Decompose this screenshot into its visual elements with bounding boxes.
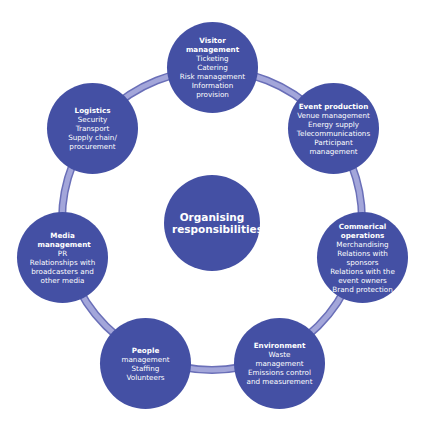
node-people: People management Staffing Volunteers (100, 318, 191, 409)
node-title: Logistics (75, 106, 111, 115)
node-item: Waste management (254, 350, 306, 368)
node-logistics: Logistics Security Transport Supply chai… (47, 83, 138, 174)
node-title: Media management (38, 231, 88, 249)
node-item: Supply chain/ procurement (65, 133, 121, 151)
node-item: PR (58, 249, 67, 258)
node-item: Venue management (297, 111, 370, 120)
center-title: Organising responsibilities (172, 211, 252, 235)
node-title: People (132, 346, 160, 355)
node-item: Energy supply (308, 120, 359, 129)
node-item: Relations with sponsors (335, 249, 391, 267)
node-commercial-operations: Commerical operations Merchandising Rela… (317, 212, 408, 303)
node-title: Environment (254, 341, 306, 350)
node-item: Relationships with broadcasters and othe… (28, 258, 98, 285)
node-item: Transport (76, 124, 110, 133)
node-item: Information provision (185, 81, 241, 99)
node-item: Brand protection (332, 285, 392, 294)
node-item: Merchandising (336, 240, 388, 249)
center-node-organising-responsibilities: Organising responsibilities (164, 175, 260, 271)
node-item: Catering (197, 63, 228, 72)
node-item: Volunteers (126, 373, 164, 382)
node-item: Emissions control and measurement (245, 368, 315, 386)
node-item: Staffing (132, 364, 160, 373)
node-item: Security (78, 115, 108, 124)
node-item: Ticketing (196, 54, 228, 63)
node-item: management (121, 355, 169, 364)
node-item: Risk management (180, 72, 245, 81)
node-environment: Environment Waste management Emissions c… (234, 318, 325, 409)
node-title: Visitor management (183, 36, 243, 54)
node-title: Commerical operations (337, 222, 389, 240)
node-item: Participant management (308, 138, 360, 156)
node-event-production: Event production Venue management Energy… (288, 83, 379, 174)
node-media-management: Media management PR Relationships with b… (17, 212, 108, 303)
node-title: Event production (299, 102, 369, 111)
node-item: Relations with the event owners (328, 267, 398, 285)
node-item: Telecommunications (297, 129, 370, 138)
node-visitor-management: Visitor management Ticketing Catering Ri… (167, 22, 258, 113)
